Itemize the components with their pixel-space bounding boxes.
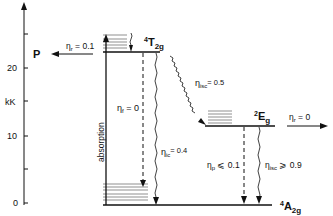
vibrational-relaxation-arrow: [129, 33, 133, 52]
eta-p-label: ηp ⩽ 0.1: [207, 160, 240, 171]
level-2eg: 2Eg: [205, 110, 275, 126]
eta-isc-t-label: ηisc= 0.5: [195, 78, 224, 89]
eg-radiative-arrow: ηr = 0: [287, 112, 328, 129]
level-label-4a2g: 4A2g: [280, 200, 301, 215]
absorption-arrow: absorption: [96, 34, 109, 205]
axis-arrow-icon: [21, 2, 27, 10]
energy-level-diagram: 0 10 20 kK 4T2g 2Eg 4A2g ab: [0, 0, 333, 216]
level-label-4t2g: 4T2g: [144, 36, 164, 51]
eta-isc-e-label: ηisc ⩾ 0.9: [265, 160, 302, 171]
eta-r-e-label: ηr = 0: [289, 112, 310, 123]
isc-arrow-eg-to-a2g: ηisc ⩾ 0.9: [256, 127, 302, 204]
p-label: P: [33, 48, 40, 60]
phosphorescence-arrow: ηp ⩽ 0.1: [207, 127, 247, 204]
tick-label-0: 0: [13, 198, 18, 208]
level-4t2g: 4T2g: [103, 35, 164, 52]
internal-conversion-arrow: ηic= 0.4: [153, 53, 187, 205]
fluorescence-arrow: ηf = 0: [117, 53, 146, 187]
axis-unit-label: kK: [5, 97, 16, 107]
tick-label-20: 20: [7, 63, 17, 73]
energy-axis: 0 10 20 kK: [5, 2, 28, 208]
tick-label-10: 10: [7, 131, 17, 141]
eta-f-label: ηf = 0: [117, 103, 139, 114]
level-4a2g: 4A2g: [103, 184, 301, 215]
level-label-2eg: 2Eg: [254, 110, 270, 125]
absorption-label: absorption: [96, 122, 106, 162]
isc-arrow-t2g-to-eg: ηisc= 0.5: [170, 56, 224, 125]
photochemistry-arrow: P ηr = 0.1: [33, 41, 95, 60]
eta-r-p-label: ηr = 0.1: [66, 41, 95, 52]
eta-ic-label: ηic= 0.4: [161, 146, 187, 158]
